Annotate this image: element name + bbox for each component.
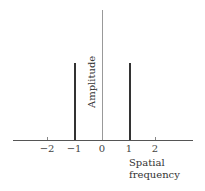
spectrum-chart: −2 −1 0 1 2 Amplitude Spatial frequency (0, 0, 205, 191)
x-tick (47, 137, 48, 140)
x-tick-label: −1 (67, 143, 82, 154)
x-axis-label: Spatial frequency (129, 157, 180, 181)
x-tick-label: 0 (99, 143, 105, 154)
x-axis-label-line2: frequency (129, 169, 180, 181)
x-tick (155, 137, 156, 140)
x-tick-label: 1 (126, 143, 132, 154)
x-axis-label-line1: Spatial (129, 157, 180, 169)
x-tick-label: −2 (40, 143, 55, 154)
y-axis-label: Amplitude (86, 56, 97, 108)
bar-minus-one (74, 63, 76, 140)
y-axis (102, 10, 103, 141)
x-axis (13, 140, 193, 141)
x-tick-label: 2 (152, 143, 158, 154)
bar-plus-one (129, 63, 131, 140)
